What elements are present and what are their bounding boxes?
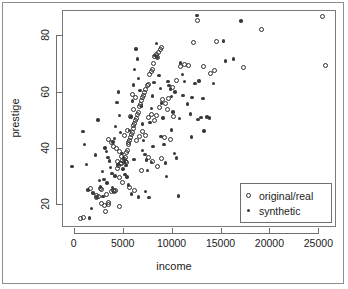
- y-axis-tick-label: 20: [39, 199, 51, 211]
- data-point: [147, 196, 150, 199]
- data-point: [130, 192, 133, 195]
- data-point: [111, 140, 114, 143]
- data-point: [159, 87, 162, 90]
- data-point: [136, 57, 139, 60]
- data-point: [96, 118, 99, 121]
- data-point: [113, 174, 116, 177]
- data-point: [137, 195, 140, 198]
- data-point: [83, 143, 86, 146]
- data-point: [224, 59, 227, 62]
- data-point: [195, 18, 200, 23]
- data-point: [114, 125, 117, 128]
- data-point: [195, 14, 198, 17]
- data-point: [165, 107, 170, 112]
- data-point: [179, 61, 182, 64]
- data-point: [160, 101, 163, 104]
- data-point: [141, 122, 144, 125]
- x-axis-tick: [172, 228, 173, 234]
- data-point: [144, 190, 147, 193]
- data-point: [138, 89, 141, 92]
- data-point: [150, 107, 153, 110]
- data-point: [202, 129, 205, 132]
- x-axis-tick-label: 0: [71, 237, 77, 249]
- data-point: [197, 79, 200, 82]
- data-point: [103, 209, 108, 214]
- data-point: [170, 95, 173, 98]
- data-point: [124, 164, 127, 167]
- data-point: [162, 135, 167, 140]
- data-point: [81, 215, 86, 220]
- y-axis-tick: [56, 35, 62, 36]
- data-point: [123, 173, 126, 176]
- data-point: [148, 121, 151, 124]
- y-axis-tick-label: 40: [39, 142, 51, 154]
- data-point: [146, 82, 151, 87]
- data-point: [169, 87, 172, 90]
- x-axis-tick: [221, 228, 222, 234]
- data-point: [94, 153, 97, 156]
- data-point: [118, 114, 121, 117]
- data-point: [183, 80, 186, 83]
- y-axis-tick: [56, 92, 62, 93]
- data-point: [98, 179, 101, 182]
- data-point: [175, 156, 178, 159]
- data-point: [173, 152, 176, 155]
- data-point: [181, 94, 184, 97]
- data-point: [191, 40, 196, 45]
- data-point: [141, 149, 144, 152]
- x-axis-tick-label: 5000: [111, 237, 134, 249]
- data-point: [152, 118, 157, 123]
- data-point: [232, 57, 235, 60]
- data-point: [139, 168, 144, 173]
- data-point: [117, 90, 120, 93]
- data-point: [155, 42, 158, 45]
- y-axis-tick: [56, 148, 62, 149]
- data-point: [109, 166, 112, 169]
- data-point: [323, 63, 328, 68]
- data-point: [157, 74, 160, 77]
- data-point: [201, 97, 204, 100]
- data-point: [134, 47, 137, 50]
- legend-label-synthetic: synthetic: [259, 205, 300, 217]
- x-axis-tick-label: 25000: [304, 237, 333, 249]
- y-axis-tick-label: 60: [39, 86, 51, 98]
- x-axis-tick-label: 20000: [255, 237, 284, 249]
- data-point: [120, 152, 123, 155]
- data-point: [186, 63, 191, 68]
- data-point: [120, 180, 125, 185]
- data-point: [136, 110, 141, 115]
- x-axis-tick: [269, 228, 270, 234]
- data-point: [142, 139, 145, 142]
- data-point: [150, 67, 155, 72]
- data-point: [151, 61, 156, 66]
- data-point: [121, 167, 124, 170]
- data-point: [166, 80, 169, 83]
- open-circle-icon: [241, 188, 259, 203]
- data-point: [106, 202, 111, 207]
- data-point: [222, 39, 225, 42]
- data-point: [173, 90, 176, 93]
- data-point: [168, 137, 173, 142]
- x-axis-tick: [318, 228, 319, 234]
- data-point: [143, 153, 146, 156]
- x-axis-title: income: [0, 260, 348, 272]
- data-point: [130, 92, 135, 97]
- data-point: [177, 194, 180, 197]
- data-point: [132, 158, 135, 161]
- data-point: [126, 142, 131, 147]
- data-point: [178, 117, 181, 120]
- data-point: [157, 105, 162, 110]
- data-point: [86, 188, 89, 191]
- data-point: [239, 19, 242, 22]
- data-point: [212, 68, 217, 73]
- data-point: [189, 112, 192, 115]
- data-point: [117, 204, 122, 209]
- data-point: [137, 134, 142, 139]
- data-point: [91, 191, 94, 194]
- data-point: [241, 65, 246, 70]
- y-axis-title: prestige: [9, 98, 21, 137]
- data-point: [113, 137, 116, 140]
- scatter-plot-image: 050001000015000200002500020406080 presti…: [0, 0, 348, 289]
- data-point: [186, 102, 189, 105]
- y-axis-line: [56, 35, 57, 204]
